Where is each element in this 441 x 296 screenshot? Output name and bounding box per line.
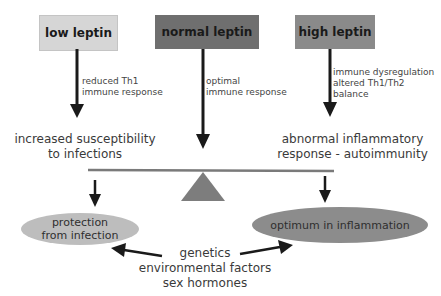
optimum-inflammation-ellipse: optimum in inflammation: [252, 207, 428, 243]
factors-text: genetics environmental factors sex hormo…: [135, 246, 275, 291]
high-arrow-label: immune dysregulation altered Th1/Th2 bal…: [333, 67, 434, 100]
balance-beam: [88, 170, 334, 171]
left-outcome-text: increased susceptibility to infections: [10, 132, 160, 162]
arrow-to-protection-icon: [111, 243, 126, 257]
protection-ellipse: protection from infection: [21, 213, 139, 245]
right-down-arrow-icon: [319, 190, 331, 203]
right-outcome-text: abnormal inflammatory response - autoimm…: [270, 132, 435, 162]
normal-arrow-label: optimal immune response: [206, 76, 287, 98]
normal-arrowhead-icon: [196, 134, 210, 149]
high-arrowhead-icon: [323, 102, 337, 117]
balance-fulcrum-icon: [181, 172, 225, 201]
low-arrow-label: reduced Th1 immune response: [82, 76, 163, 98]
low-arrowhead-icon: [70, 104, 84, 118]
arrow-to-inflammation-icon: [278, 240, 293, 254]
left-down-arrow-icon: [89, 194, 101, 207]
